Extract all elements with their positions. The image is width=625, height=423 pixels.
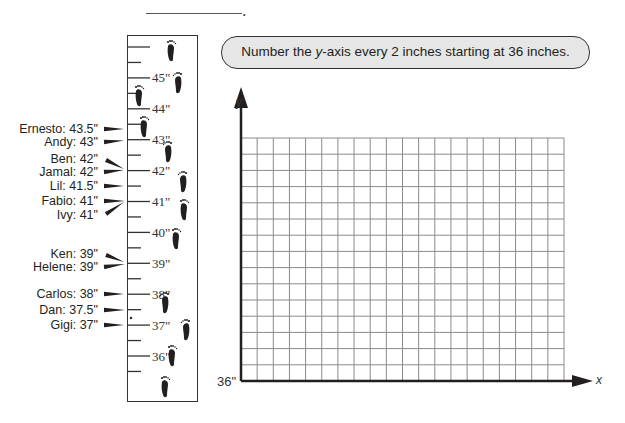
x-axis-label: x: [596, 373, 602, 387]
x-axis-arrow-icon: [572, 375, 593, 387]
y-axis-start-label: 36": [217, 374, 236, 389]
blank-graph-grid: [0, 0, 625, 423]
y-axis-label: y: [236, 95, 242, 109]
